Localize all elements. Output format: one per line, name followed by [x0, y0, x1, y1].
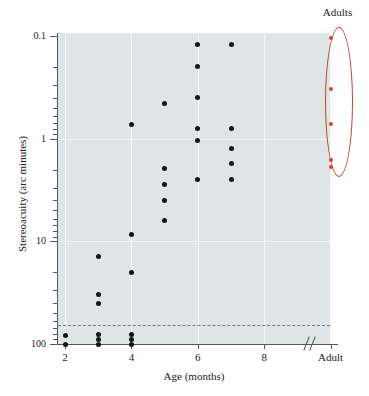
y-axis-tick-minor	[53, 303, 58, 304]
adult-data-point	[329, 87, 333, 91]
infant-data-point	[129, 122, 134, 127]
infant-data-point	[96, 254, 101, 259]
stereoacuity-scatter-figure: Adults Age (months) Stereoacuity (arc mi…	[0, 0, 369, 396]
y-axis-tick-major	[50, 139, 58, 140]
y-axis-tick-minor	[53, 129, 58, 130]
threshold-dashed-line	[58, 325, 330, 326]
infant-data-point	[129, 332, 134, 337]
infant-data-point	[129, 232, 134, 237]
infant-data-point	[229, 177, 234, 182]
y-axis-tick-minor	[53, 339, 58, 340]
y-axis-tick-minor	[53, 170, 58, 171]
infant-data-point	[162, 166, 167, 171]
y-axis-tick-minor	[53, 225, 58, 226]
gridline-vertical	[65, 33, 66, 344]
infant-data-point	[195, 42, 200, 47]
y-axis-tick-major	[50, 36, 58, 37]
y-axis-tick-minor	[53, 219, 58, 220]
y-axis-tick-label: 10	[16, 236, 46, 246]
y-axis-tick-minor	[53, 188, 58, 189]
infant-data-point	[162, 101, 167, 106]
y-axis-tick-major	[50, 344, 58, 345]
gridline-vertical	[131, 33, 132, 344]
x-axis-tick-label: 2	[35, 352, 95, 363]
infant-data-point	[229, 126, 234, 131]
y-axis-tick-minor	[53, 210, 58, 211]
infant-data-point	[129, 270, 134, 275]
adults-group-ellipse	[325, 27, 353, 177]
adult-data-point	[329, 158, 333, 162]
gridline-horizontal	[58, 139, 330, 140]
infant-data-point	[96, 332, 101, 337]
y-axis-tick-major	[50, 241, 58, 242]
x-axis-tick	[331, 344, 332, 349]
y-axis-tick-minor	[53, 313, 58, 314]
y-axis-tick-minor	[53, 85, 58, 86]
y-axis-tick-minor	[53, 321, 58, 322]
gridline-horizontal	[58, 241, 330, 242]
y-axis-tick-minor	[53, 328, 58, 329]
y-axis-tick-minor	[53, 200, 58, 201]
y-axis-line	[57, 33, 58, 345]
y-axis-tick-label: 1	[16, 134, 46, 144]
adult-data-point	[329, 36, 333, 40]
x-axis-title: Age (months)	[58, 370, 330, 382]
adult-data-point	[329, 165, 333, 169]
infant-data-point	[63, 342, 68, 347]
x-axis-tick-label: 6	[168, 352, 228, 363]
infant-data-point	[129, 342, 134, 347]
y-axis-tick-minor	[53, 134, 58, 135]
y-axis-tick-minor	[53, 116, 58, 117]
gridline-vertical	[198, 33, 199, 344]
x-axis-tick-label: Adult	[301, 352, 361, 363]
y-axis-tick-label: 0.1	[16, 31, 46, 41]
plot-area	[58, 33, 330, 344]
infant-data-point	[96, 301, 101, 306]
infant-data-point	[96, 292, 101, 297]
infant-data-point	[229, 42, 234, 47]
adults-group-label: Adults	[306, 6, 369, 18]
y-axis-tick-minor	[53, 123, 58, 124]
infant-data-point	[63, 333, 68, 338]
infant-data-point	[229, 161, 234, 166]
x-axis-break-mark	[303, 336, 321, 352]
y-axis-tick-minor	[53, 98, 58, 99]
infant-data-point	[229, 146, 234, 151]
y-axis-tick-minor	[53, 237, 58, 238]
y-axis-tick-label: 100	[16, 339, 46, 349]
y-axis-tick-minor	[53, 108, 58, 109]
y-axis-tick-minor	[53, 334, 58, 335]
y-axis-title: Stereoacuity (arc minutes)	[16, 94, 28, 294]
x-axis-tick	[264, 344, 265, 349]
y-axis-tick-minor	[53, 290, 58, 291]
y-axis-tick-minor	[53, 67, 58, 68]
x-axis-tick	[198, 344, 199, 349]
infant-data-point	[96, 342, 101, 347]
x-axis-tick-label: 8	[234, 352, 294, 363]
gridline-vertical	[264, 33, 265, 344]
x-axis-tick-label: 4	[101, 352, 161, 363]
y-axis-tick-minor	[53, 272, 58, 273]
y-axis-tick-minor	[53, 231, 58, 232]
adult-data-point	[329, 122, 333, 126]
